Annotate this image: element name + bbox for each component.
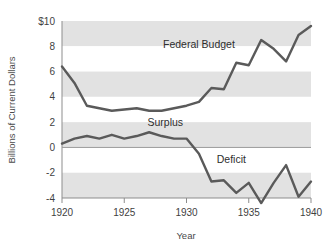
x-tick-label: 1925 bbox=[113, 207, 136, 218]
y-tick-label: -2 bbox=[46, 167, 55, 178]
y-tick-label: 0 bbox=[49, 142, 55, 153]
grid-band bbox=[62, 72, 311, 97]
y-tick-label: 6 bbox=[49, 66, 55, 77]
budget-deficit-line-chart: 19201925193019351940 $1086420-2-4 Federa… bbox=[0, 0, 330, 246]
y-tick-label: -4 bbox=[46, 193, 55, 204]
y-tick-label: 8 bbox=[49, 41, 55, 52]
chart-container: 19201925193019351940 $1086420-2-4 Federa… bbox=[0, 0, 330, 246]
x-tick-label: 1930 bbox=[175, 207, 198, 218]
grid-band bbox=[62, 122, 311, 147]
annotation-surplus: Surplus bbox=[148, 116, 184, 128]
y-axis-title: Billions of Current Dollars bbox=[6, 56, 17, 163]
x-axis-title: Year bbox=[176, 230, 195, 241]
y-tick-label: $10 bbox=[38, 16, 55, 27]
x-tick-label: 1935 bbox=[238, 207, 261, 218]
x-tick-label: 1920 bbox=[51, 207, 74, 218]
grid-band bbox=[62, 173, 311, 198]
annotation-federal-budget: Federal Budget bbox=[163, 38, 235, 50]
grid-band bbox=[62, 147, 311, 172]
y-tick-label: 4 bbox=[49, 91, 55, 102]
annotation-deficit: Deficit bbox=[217, 153, 246, 165]
grid-band bbox=[62, 97, 311, 122]
x-tick-label: 1940 bbox=[300, 207, 323, 218]
y-tick-label: 2 bbox=[49, 117, 55, 128]
